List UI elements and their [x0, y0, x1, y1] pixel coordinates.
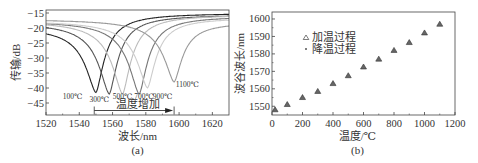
triangle-marker	[406, 40, 412, 45]
x-tick-label: 400	[325, 118, 341, 129]
x-tick-label: 1540	[69, 118, 90, 129]
chart-a-xlabel: 波长/nm	[118, 130, 158, 142]
y-tick-label: −40	[28, 83, 44, 94]
y-tick-label: 1580	[249, 48, 270, 59]
x-tick-label: 1620	[202, 118, 223, 129]
y-tick-label: 1550	[249, 101, 270, 112]
chart-b-ylabel: 波谷波长/nm	[234, 33, 246, 95]
chart-a-ylabel: 传输/dB	[9, 44, 22, 82]
triangle-marker	[391, 47, 397, 52]
chart-b-xlabel: 温度/℃	[339, 129, 376, 142]
y-tick-label: −30	[28, 53, 44, 64]
x-tick-label: 1000	[414, 118, 435, 129]
chart-b-legend: 加温过程降温过程	[303, 31, 356, 55]
chart-a-transmission-spectra: 152015401560158016001620−15−20−25−30−35−…	[9, 8, 229, 158]
y-tick-label: −45	[28, 98, 44, 109]
x-tick-label: 600	[356, 118, 372, 129]
triangle-marker	[315, 88, 321, 93]
x-tick-label: 1580	[135, 118, 156, 129]
x-tick-label: 200	[295, 118, 311, 129]
y-tick-label: 1590	[249, 31, 270, 42]
triangle-marker	[361, 64, 367, 69]
chart-b-ticks: 0200400600800100012001550156015701580159…	[249, 13, 466, 129]
curve-label: 100℃	[63, 92, 83, 101]
triangle-marker	[300, 95, 306, 100]
y-tick-label: −15	[28, 8, 44, 19]
figure: 152015401560158016001620−15−20−25−30−35−…	[0, 0, 478, 163]
y-tick-label: 1560	[249, 83, 270, 94]
y-tick-label: −35	[28, 68, 44, 79]
curve-label: 300℃	[89, 95, 109, 104]
spectrum-curve	[46, 16, 229, 94]
temperature-increase-label: 温度增加	[116, 97, 160, 110]
y-tick-label: 1600	[249, 13, 270, 24]
spectrum-curve	[46, 21, 229, 82]
triangle-marker	[437, 21, 443, 26]
triangle-marker	[284, 102, 290, 107]
triangle-marker	[272, 107, 278, 112]
triangle-marker	[330, 81, 336, 86]
y-tick-label: 1570	[249, 66, 270, 77]
x-tick-label: 1200	[445, 118, 466, 129]
panel-b-caption: (b)	[351, 144, 364, 157]
x-tick-label: 0	[269, 118, 274, 129]
x-tick-label: 1520	[36, 118, 57, 129]
x-tick-label: 800	[386, 118, 402, 129]
x-tick-label: 1600	[169, 118, 190, 129]
triangle-marker	[345, 73, 351, 78]
spectrum-curves	[46, 14, 229, 94]
y-tick-label: −20	[28, 23, 44, 34]
curve-label: 1100℃	[176, 80, 199, 89]
legend-heating: 加温过程	[312, 31, 356, 43]
dot-legend-icon	[305, 48, 307, 50]
chart-b-dip-wavelength-vs-temperature: 0200400600800100012001550156015701580159…	[234, 12, 466, 157]
panel-a-caption: (a)	[131, 144, 144, 157]
triangle-legend-icon	[303, 35, 309, 40]
triangle-marker	[422, 30, 428, 35]
y-tick-label: −25	[28, 38, 44, 49]
scatter-points	[272, 21, 443, 112]
x-tick-label: 1560	[102, 118, 123, 129]
triangle-marker	[376, 56, 382, 61]
legend-cooling: 降温过程	[312, 42, 356, 55]
